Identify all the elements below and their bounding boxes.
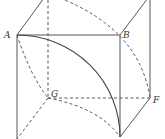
cube-diagram: A B G F (0, 0, 165, 139)
label-F: F (152, 95, 160, 105)
label-G: G (51, 89, 58, 99)
edge-top-left-depth (17, 0, 44, 35)
arc-G-to-C (48, 98, 120, 137)
arc-A-to-G (17, 35, 48, 98)
label-A: A (3, 30, 11, 40)
arc-A-to-C (17, 35, 120, 137)
hidden-edge-bottom-left-depth (17, 98, 48, 139)
edge-bottom-right-depth (120, 98, 150, 137)
label-B: B (122, 30, 130, 40)
